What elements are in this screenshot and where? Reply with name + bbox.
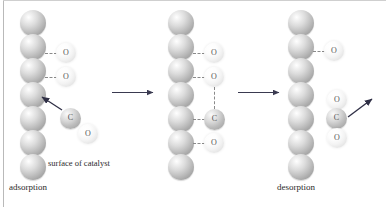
escape-arrow (348, 99, 372, 117)
approach-arrow (42, 97, 62, 110)
figure-canvas: O O C O surface of catalyst adsorption (0, 0, 386, 207)
arrow-overlay (0, 0, 386, 207)
